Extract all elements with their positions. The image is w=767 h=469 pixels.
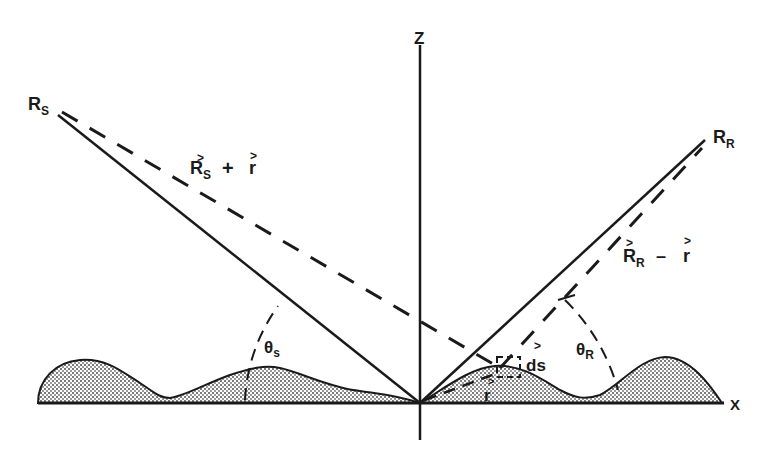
source-incident-ray (58, 115, 420, 403)
x-axis-label: X (730, 396, 740, 413)
scattering-diagram: Z X RS RR > RS + > r > RR – > r θs θR > … (0, 0, 767, 469)
theta-r-label: θR (576, 340, 594, 362)
svg-text:RS: RS (190, 158, 211, 182)
source-plus-r-label: > RS + > r (190, 149, 257, 182)
svg-text:r: r (683, 246, 690, 266)
source-to-ds-vector (62, 112, 500, 368)
svg-text:r: r (249, 158, 256, 178)
rough-surface (38, 357, 722, 403)
receiver-point-label: RR (713, 127, 735, 151)
svg-text:+: + (222, 157, 234, 179)
receiver-minus-r-label: > RR – > r (623, 234, 691, 270)
theta-s-label: θs (264, 338, 280, 360)
r-label: r (484, 386, 491, 405)
ds-arrow: > (534, 339, 541, 353)
svg-text:–: – (656, 246, 666, 266)
ds-label: ds (526, 356, 546, 375)
z-axis-label: Z (414, 29, 424, 48)
source-point-label: RS (28, 94, 49, 118)
svg-text:RR: RR (623, 246, 645, 270)
theta-r-arc (565, 300, 618, 390)
ds-to-receiver-vector (500, 148, 702, 368)
